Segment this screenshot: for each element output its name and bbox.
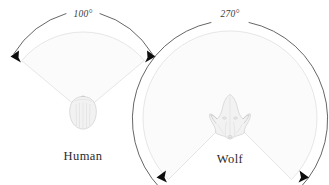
human-head-top-view-icon xyxy=(70,96,97,129)
human-arrowhead-left xyxy=(11,51,22,63)
human-angle-label: 100° xyxy=(74,9,93,19)
human-species-label: Human xyxy=(64,149,103,163)
wolf-species-label: Wolf xyxy=(217,152,244,166)
figure-canvas: 100° Human xyxy=(0,0,329,185)
human-arrowhead-right xyxy=(145,51,156,63)
panel-wolf: 270° Wolf xyxy=(132,9,327,185)
panel-human: 100° Human xyxy=(11,9,156,163)
wolf-angle-label: 270° xyxy=(221,9,240,19)
wolf-arrowhead-right xyxy=(299,171,310,183)
field-of-view-figure: 100° Human xyxy=(0,0,329,185)
